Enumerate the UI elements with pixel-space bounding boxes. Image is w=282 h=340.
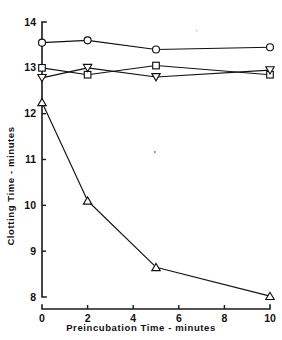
data-point-marker bbox=[83, 197, 91, 204]
y-tick-label: 8 bbox=[30, 291, 36, 303]
data-point-marker bbox=[153, 46, 160, 53]
data-series-circle-series bbox=[39, 37, 274, 53]
axis-ticks bbox=[42, 68, 224, 309]
data-point-marker bbox=[267, 44, 274, 51]
y-axis-title: Clotting Time - minutes bbox=[5, 126, 16, 245]
data-series-triangle-series bbox=[38, 98, 274, 299]
chart-figure: 891011121314 0246810 Preincubation Time … bbox=[0, 0, 282, 340]
chart-plot-area: 891011121314 0246810 Preincubation Time … bbox=[0, 0, 282, 340]
y-tick-label: 13 bbox=[24, 61, 36, 73]
data-point-marker bbox=[39, 65, 46, 72]
x-axis-line bbox=[42, 305, 270, 309]
x-axis-title: Preincubation Time - minutes bbox=[66, 322, 216, 333]
data-point-marker bbox=[84, 37, 91, 44]
data-point-marker bbox=[153, 62, 160, 69]
y-tick-label: 10 bbox=[24, 199, 36, 211]
y-tick-label: 14 bbox=[24, 16, 36, 28]
data-point-marker bbox=[38, 75, 46, 82]
y-tick-label: 9 bbox=[30, 245, 36, 257]
data-series-group bbox=[38, 37, 274, 300]
y-axis-tick-labels: 891011121314 bbox=[24, 16, 36, 303]
x-tick-label: 0 bbox=[39, 312, 45, 324]
y-tick-label: 11 bbox=[25, 153, 36, 165]
y-tick-label: 12 bbox=[24, 107, 36, 119]
data-point-marker bbox=[39, 39, 46, 46]
x-tick-label: 10 bbox=[264, 312, 276, 324]
data-point-marker bbox=[38, 98, 46, 105]
x-tick-label: 8 bbox=[221, 312, 227, 324]
